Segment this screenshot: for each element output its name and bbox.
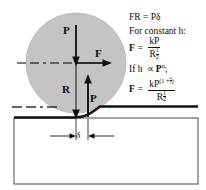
eq2-denominator-exponent: 12 — [163, 91, 166, 103]
label-load-P: P — [63, 25, 70, 36]
eq2-fraction: kP(1 +n2) R12 — [148, 76, 174, 103]
deformed-surface-profile — [14, 107, 198, 118]
eq2-numerator: kP(1 +n2) — [148, 76, 174, 91]
equation-block: FR = Pδ For constant h: F = kP R12 If h … — [129, 12, 205, 106]
eq2-denominator: R12 — [148, 91, 174, 103]
label-friction-F: F — [95, 48, 102, 59]
line3-suffix: ; — [165, 64, 168, 74]
eq1-fraction: kP R12 — [148, 37, 160, 60]
eq2-lhs: F — [129, 84, 135, 95]
substrate-body — [14, 118, 198, 184]
proportional-icon: ∝ — [147, 64, 154, 74]
equation-force-h-power: F = kP(1 +n2) R12 — [129, 76, 205, 103]
eq1-lhs: F — [129, 43, 135, 54]
equation-condition-h-power: If h ∝Pn; — [129, 64, 205, 75]
label-radius-R: R — [62, 84, 70, 95]
label-reaction-P: P — [90, 93, 97, 104]
label-penetration-delta: δ — [76, 131, 80, 140]
equation-condition-constant-h: For constant h: — [129, 26, 205, 37]
equation-force-constant-h: F = kP R12 — [129, 37, 205, 60]
eq1-equals: = — [138, 43, 143, 54]
eq1-denominator: R12 — [148, 48, 160, 60]
line3-prefix: If h — [129, 64, 142, 74]
indentation-mechanics-figure: P F R P δ FR = Pδ For constant h: F = kP… — [0, 0, 206, 190]
eq2-equals: = — [138, 84, 143, 95]
eq1-denominator-exponent: 12 — [156, 48, 159, 60]
equation-moment-balance: FR = Pδ — [129, 12, 205, 23]
eq2-numerator-exponent: (1 +n2) — [159, 77, 173, 84]
